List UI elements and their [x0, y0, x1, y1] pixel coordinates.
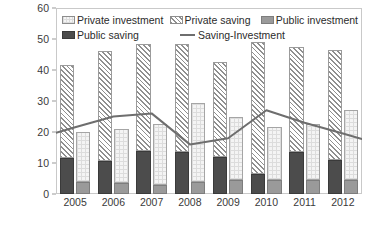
bar-segment-public-investment-2007: [153, 185, 167, 194]
bar-segment-private-saving-2006: [98, 51, 112, 161]
legend-label-public-saving: Public saving: [77, 29, 139, 41]
bar-segment-private-investment-2011: [306, 124, 320, 180]
legend-row-2: Public saving Saving-Investment: [62, 27, 358, 42]
legend-label-private-saving: Private saving: [185, 14, 251, 26]
bar-segment-public-saving-2012: [328, 160, 342, 194]
x-axis-tick-label: 2007: [140, 196, 163, 208]
legend-item-public-saving: Public saving: [62, 29, 180, 41]
bar-segment-public-investment-2005: [76, 182, 90, 194]
bar-segment-private-saving-2010: [251, 42, 265, 174]
x-axis-tick-label: 2005: [63, 196, 86, 208]
bar-segment-public-saving-2008: [175, 152, 189, 194]
x-axis-tick-label: 2009: [216, 196, 239, 208]
y-axis-tick-label: 0: [43, 189, 49, 200]
bar-segment-private-investment-2006: [114, 129, 128, 183]
chart-root: 0102030405060 20052006200720082009201020…: [0, 0, 369, 227]
private-investment-swatch-icon: [62, 16, 75, 24]
bar-segment-public-saving-2007: [136, 151, 150, 194]
bar-segment-public-investment-2010: [267, 180, 281, 194]
y-axis: 0102030405060: [0, 8, 56, 194]
legend-item-private-saving: Private saving: [170, 14, 261, 26]
legend-label-private-investment: Private investment: [77, 14, 163, 26]
legend-item-public-investment: Public investment: [261, 14, 358, 26]
y-axis-tick-label: 40: [37, 65, 49, 76]
bar-segment-private-investment-2005: [76, 132, 90, 182]
x-axis-labels: 20052006200720082009201020112012: [56, 196, 362, 218]
x-axis-tick-label: 2008: [178, 196, 201, 208]
bar-segment-public-saving-2006: [98, 161, 112, 194]
y-axis-tick-label: 30: [37, 96, 49, 107]
legend-label-saving-investment: Saving-Investment: [198, 29, 285, 41]
bar-segment-private-saving-2011: [289, 47, 303, 152]
x-axis-tick-label: 2012: [331, 196, 354, 208]
bar-segment-private-investment-2009: [229, 117, 243, 181]
bar-segment-private-saving-2005: [60, 65, 74, 158]
legend-item-private-investment: Private investment: [62, 14, 170, 26]
bar-segment-private-saving-2012: [328, 50, 342, 160]
y-axis-tick-label: 20: [37, 127, 49, 138]
y-axis-tick-label: 60: [37, 3, 49, 14]
x-axis-tick-label: 2006: [102, 196, 125, 208]
private-saving-swatch-icon: [170, 16, 183, 24]
bar-segment-private-investment-2008: [191, 103, 205, 182]
bar-segment-public-saving-2005: [60, 158, 74, 194]
bar-segment-private-investment-2010: [267, 127, 281, 180]
public-saving-swatch-icon: [62, 31, 75, 39]
bar-segment-private-saving-2008: [175, 44, 189, 153]
bar-segment-private-saving-2009: [213, 62, 227, 157]
bar-segment-private-saving-2007: [136, 44, 150, 151]
bar-segment-private-investment-2007: [153, 124, 167, 184]
bar-segment-public-investment-2012: [344, 180, 358, 194]
bar-segment-public-saving-2011: [289, 152, 303, 194]
public-investment-swatch-icon: [261, 16, 274, 24]
bar-segment-public-investment-2006: [114, 183, 128, 194]
y-axis-tick-label: 10: [37, 158, 49, 169]
x-axis-tick-label: 2010: [255, 196, 278, 208]
x-axis-tick-label: 2011: [293, 196, 316, 208]
y-axis-tick-label: 50: [37, 34, 49, 45]
bar-segment-public-saving-2010: [251, 174, 265, 194]
bar-segment-private-investment-2012: [344, 110, 358, 180]
legend-item-saving-investment: Saving-Investment: [180, 29, 285, 41]
bar-segment-public-saving-2009: [213, 157, 227, 194]
chart-legend: Private investment Private saving Public…: [62, 12, 358, 42]
bar-segment-public-investment-2009: [229, 180, 243, 194]
legend-label-public-investment: Public investment: [276, 14, 358, 26]
legend-row-1: Private investment Private saving Public…: [62, 12, 358, 27]
saving-investment-line-icon: [180, 34, 195, 36]
bar-segment-public-investment-2011: [306, 180, 320, 194]
bar-segment-public-investment-2008: [191, 182, 205, 194]
